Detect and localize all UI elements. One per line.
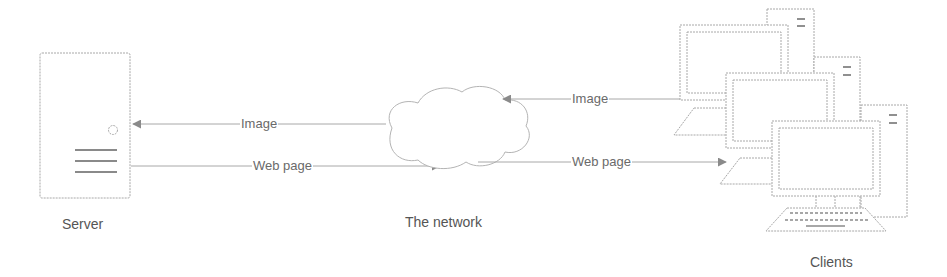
clients-label: Clients (810, 254, 853, 270)
edge-label-webpage-clients: Web page (571, 155, 632, 169)
server-label: Server (62, 216, 103, 232)
network-label: The network (405, 214, 482, 230)
client-computer-3 (766, 105, 907, 231)
edge-label-webpage-server: Web page (252, 159, 313, 173)
server-icon (40, 53, 130, 198)
diagram-canvas (0, 0, 947, 277)
edge-label-image-clients: Image (571, 92, 609, 106)
edge-label-image-server: Image (240, 117, 278, 131)
